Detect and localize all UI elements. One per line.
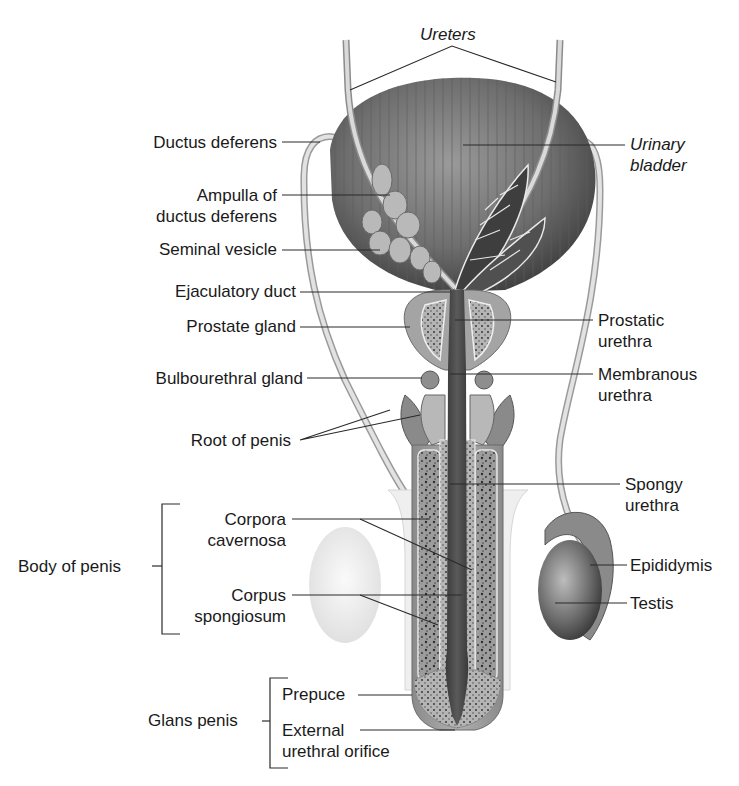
- label-ampulla: Ampulla of ductus deferens: [156, 185, 277, 227]
- label-prostate-gland: Prostate gland: [186, 316, 296, 337]
- urethra-channel: [446, 290, 468, 726]
- label-corpus-spongiosum: Corpus spongiosum: [194, 585, 286, 627]
- label-testis: Testis: [630, 593, 673, 614]
- label-ureters: Ureters: [420, 24, 476, 45]
- label-membranous-urethra: Membranous urethra: [598, 364, 697, 406]
- label-urinary-bladder: Urinary bladder: [630, 134, 687, 176]
- label-bulbourethral-gland: Bulbourethral gland: [156, 368, 303, 389]
- label-epididymis: Epididymis: [630, 555, 712, 576]
- corpora-cavernosa-left: [418, 450, 440, 680]
- body-of-penis-bracket: [162, 504, 180, 634]
- label-external-urethral-orifice: External urethral orifice: [282, 720, 390, 762]
- testis-right: [538, 540, 602, 640]
- label-glans-penis: Glans penis: [148, 710, 238, 731]
- testis-left-ghost: [309, 527, 381, 643]
- label-ejaculatory-duct: Ejaculatory duct: [175, 281, 296, 302]
- label-seminal-vesicle: Seminal vesicle: [159, 239, 277, 260]
- label-spongy-urethra: Spongy urethra: [625, 474, 683, 516]
- label-prostatic-urethra: Prostatic urethra: [598, 310, 664, 352]
- label-ductus-deferens: Ductus deferens: [153, 132, 277, 153]
- label-body-of-penis: Body of penis: [18, 556, 121, 577]
- label-prepuce: Prepuce: [282, 684, 345, 705]
- bulbourethral-gland-left: [421, 371, 439, 389]
- label-corpora-cavernosa: Corpora cavernosa: [208, 509, 286, 551]
- label-root-of-penis: Root of penis: [191, 430, 291, 451]
